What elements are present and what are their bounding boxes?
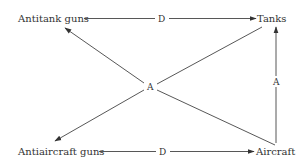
node-antitank-guns: Antitank guns (17, 13, 89, 24)
node-aircraft: Aircraft (255, 146, 295, 157)
node-tanks: Tanks (257, 13, 287, 24)
edge-aircraft-to-center-a (157, 90, 275, 145)
edge-label-center-a: A (146, 82, 154, 92)
edge-label-right-a: A (272, 77, 280, 87)
node-antiaircraft-guns: Antiaircraft guns (17, 146, 104, 157)
edge-label-bottom-d: D (159, 147, 166, 157)
relationship-diagram: Antitank guns Tanks Antiaircraft guns Ai… (0, 0, 300, 164)
edge-tanks-to-center-a (157, 27, 262, 84)
edge-center-a-to-antiaircraft-arrow (55, 90, 144, 141)
edge-center-a-to-antitank-arrow (65, 28, 144, 83)
edge-label-top-d: D (158, 14, 165, 24)
